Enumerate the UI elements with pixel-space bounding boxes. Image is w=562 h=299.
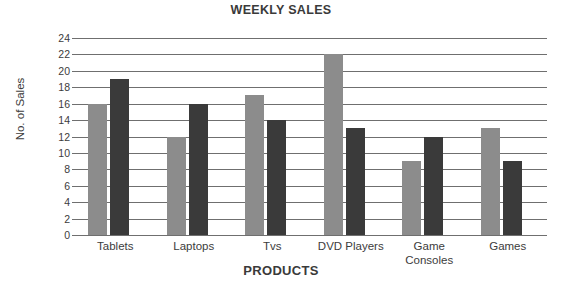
y-axis-tick-label: 14 xyxy=(44,115,70,125)
y-axis-tick-label: 8 xyxy=(44,164,70,174)
y-axis-tick-mark xyxy=(72,235,76,236)
y-axis-tick-label: 2 xyxy=(44,214,70,224)
bar xyxy=(481,128,500,235)
x-axis-title: PRODUCTS xyxy=(0,263,562,278)
bar xyxy=(402,161,421,235)
bar-group xyxy=(76,38,155,235)
x-axis-category-label: Games xyxy=(469,240,548,254)
bar xyxy=(346,128,365,235)
y-axis-tick-mark xyxy=(72,169,76,170)
y-axis-tick-label: 22 xyxy=(44,49,70,59)
bar-chart: WEEKLY SALES No. of Sales 02468101214161… xyxy=(0,0,562,299)
bar-group xyxy=(233,38,312,235)
bar-group xyxy=(312,38,391,235)
chart-title: WEEKLY SALES xyxy=(0,3,562,17)
y-axis-tick-mark xyxy=(72,54,76,55)
y-axis-tick-mark xyxy=(72,71,76,72)
plot-area xyxy=(76,38,547,235)
y-axis-tick-label: 20 xyxy=(44,66,70,76)
y-axis-tick-mark xyxy=(72,137,76,138)
y-axis-tick-label: 18 xyxy=(44,82,70,92)
bar xyxy=(245,95,264,235)
y-axis-tick-mark xyxy=(72,38,76,39)
bar xyxy=(88,104,107,235)
bar-group xyxy=(469,38,548,235)
x-axis-category-label: Tvs xyxy=(233,240,312,254)
y-axis-tick-label: 10 xyxy=(44,148,70,158)
bar-group xyxy=(155,38,234,235)
bar xyxy=(189,104,208,235)
bar xyxy=(110,79,129,235)
y-axis-tick-mark xyxy=(72,87,76,88)
x-axis-category-label: Laptops xyxy=(155,240,234,254)
x-axis-category-label: Tablets xyxy=(76,240,155,254)
y-axis-tick-mark xyxy=(72,153,76,154)
y-axis-tick-mark xyxy=(72,104,76,105)
x-axis-category-label: DVD Players xyxy=(312,240,391,254)
y-axis-tick-label: 6 xyxy=(44,181,70,191)
y-axis-tick-label: 12 xyxy=(44,132,70,142)
bar xyxy=(267,120,286,235)
y-axis-tick-labels: 024681012141618202224 xyxy=(44,38,70,235)
y-axis-tick-mark xyxy=(72,202,76,203)
y-axis-tick-label: 4 xyxy=(44,197,70,207)
y-axis-tick-mark xyxy=(72,186,76,187)
y-axis-tick-label: 0 xyxy=(44,230,70,240)
bar xyxy=(424,137,443,236)
bar xyxy=(324,54,343,235)
y-axis-tick-mark xyxy=(72,219,76,220)
y-axis-tick-label: 24 xyxy=(44,33,70,43)
bar xyxy=(167,137,186,236)
bar xyxy=(503,161,522,235)
y-axis-tick-mark xyxy=(72,120,76,121)
bar-group xyxy=(390,38,469,235)
y-axis-tick-label: 16 xyxy=(44,99,70,109)
y-axis-title: No. of Sales xyxy=(14,54,26,164)
gridline xyxy=(76,235,547,236)
